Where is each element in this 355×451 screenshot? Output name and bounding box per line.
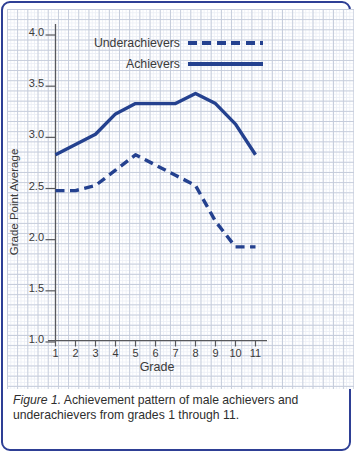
y-tick-label: 3.0 xyxy=(29,128,44,140)
legend-row-achievers: Achievers xyxy=(0,57,263,71)
y-tick-label: 2.0 xyxy=(29,231,44,243)
x-tick-label: 4 xyxy=(112,347,118,359)
series-line-underachievers xyxy=(56,155,256,247)
x-tick-label: 5 xyxy=(132,347,138,359)
y-tick-label: 1.0 xyxy=(29,333,44,345)
legend-label-achievers: Achievers xyxy=(126,57,180,71)
legend-solid-line-sample xyxy=(188,62,263,66)
y-tick-label: 3.5 xyxy=(29,77,44,89)
x-tick-label: 1 xyxy=(52,347,58,359)
legend-row-underachievers: Underachievers xyxy=(0,36,263,50)
figure-caption-text: Achievement pattern of male achievers an… xyxy=(61,393,298,407)
x-tick-label: 10 xyxy=(229,347,241,359)
y-tick-label: 2.5 xyxy=(29,180,44,192)
x-tick-label: 2 xyxy=(72,347,78,359)
x-tick-label: 6 xyxy=(152,347,158,359)
legend-label-underachievers: Underachievers xyxy=(94,36,180,50)
x-tick-label: 9 xyxy=(212,347,218,359)
series-line-achievers xyxy=(56,93,256,154)
x-tick-label: 3 xyxy=(92,347,98,359)
figure-caption-label: Figure 1. xyxy=(13,393,61,407)
chart-legend: Underachievers Achievers xyxy=(0,36,263,78)
y-axis-title: Grade Point Average xyxy=(8,149,20,256)
legend-dashed-line-sample xyxy=(188,41,263,45)
figure-caption-line2: underachievers from grades 1 through 11. xyxy=(13,408,345,423)
y-tick-label: 1.5 xyxy=(29,282,44,294)
x-tick-label: 11 xyxy=(250,347,261,359)
x-axis-title: Grade xyxy=(140,360,175,374)
figure-caption: Figure 1. Achievement pattern of male ac… xyxy=(13,393,345,423)
x-tick-label: 7 xyxy=(172,347,178,359)
x-tick-label: 8 xyxy=(192,347,198,359)
